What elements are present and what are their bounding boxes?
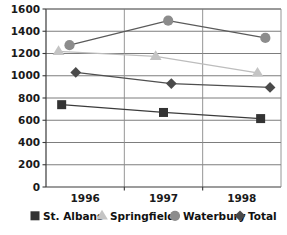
y-axis-tick-labels: 02004006008001000120014001600	[11, 3, 46, 193]
legend-item-st-albans[interactable]: St. Albans	[31, 210, 104, 222]
legend-item-waterbury[interactable]: Waterbury	[170, 210, 246, 222]
series-springfield	[53, 45, 264, 76]
data-point-1998-total	[265, 82, 276, 93]
data-point-1996-springfield	[53, 45, 65, 55]
data-point-1998-st-albans	[256, 114, 265, 123]
legend-item-total[interactable]: Total	[235, 210, 277, 222]
data-point-1998-waterbury	[260, 33, 270, 43]
series-st-albans	[57, 100, 265, 123]
legend-label: Springfield	[110, 210, 175, 222]
x-tick-label-1996: 1996	[71, 192, 100, 204]
data-point-1996-waterbury	[64, 40, 74, 50]
y-tick-label-600: 600	[18, 114, 40, 126]
data-point-1997-total	[166, 78, 177, 89]
chart-legend: St. AlbansSpringfieldWaterburyTotal	[31, 210, 277, 222]
x-axis-tick-labels: 199619971998	[71, 187, 257, 204]
series-waterbury	[64, 16, 270, 51]
x-tick-label-1997: 1997	[149, 192, 178, 204]
legend-label: St. Albans	[43, 210, 103, 222]
legend-label: Total	[248, 210, 277, 222]
data-point-1996-st-albans	[57, 100, 66, 109]
y-tick-label-200: 200	[18, 158, 40, 170]
data-point-1997-springfield	[150, 50, 162, 60]
chart-canvas: 02004006008001000120014001600 1996199719…	[0, 0, 287, 235]
data-point-1997-waterbury	[163, 16, 173, 26]
x-tick-label-1998: 1998	[227, 192, 256, 204]
data-point-1997-st-albans	[159, 108, 168, 117]
y-tick-label-0: 0	[33, 181, 40, 193]
y-tick-label-1200: 1200	[11, 47, 40, 59]
y-tick-label-800: 800	[18, 92, 40, 104]
legend-marker-square-icon	[31, 211, 40, 220]
y-tick-label-1000: 1000	[11, 69, 40, 81]
line-chart: 02004006008001000120014001600 1996199719…	[0, 0, 287, 235]
legend-marker-circle-icon	[170, 211, 180, 221]
y-tick-label-1400: 1400	[11, 25, 40, 37]
series-plot-area	[53, 16, 276, 124]
legend-item-springfield[interactable]: Springfield	[96, 210, 175, 222]
y-tick-label-1600: 1600	[11, 3, 40, 15]
y-tick-label-400: 400	[18, 136, 40, 148]
